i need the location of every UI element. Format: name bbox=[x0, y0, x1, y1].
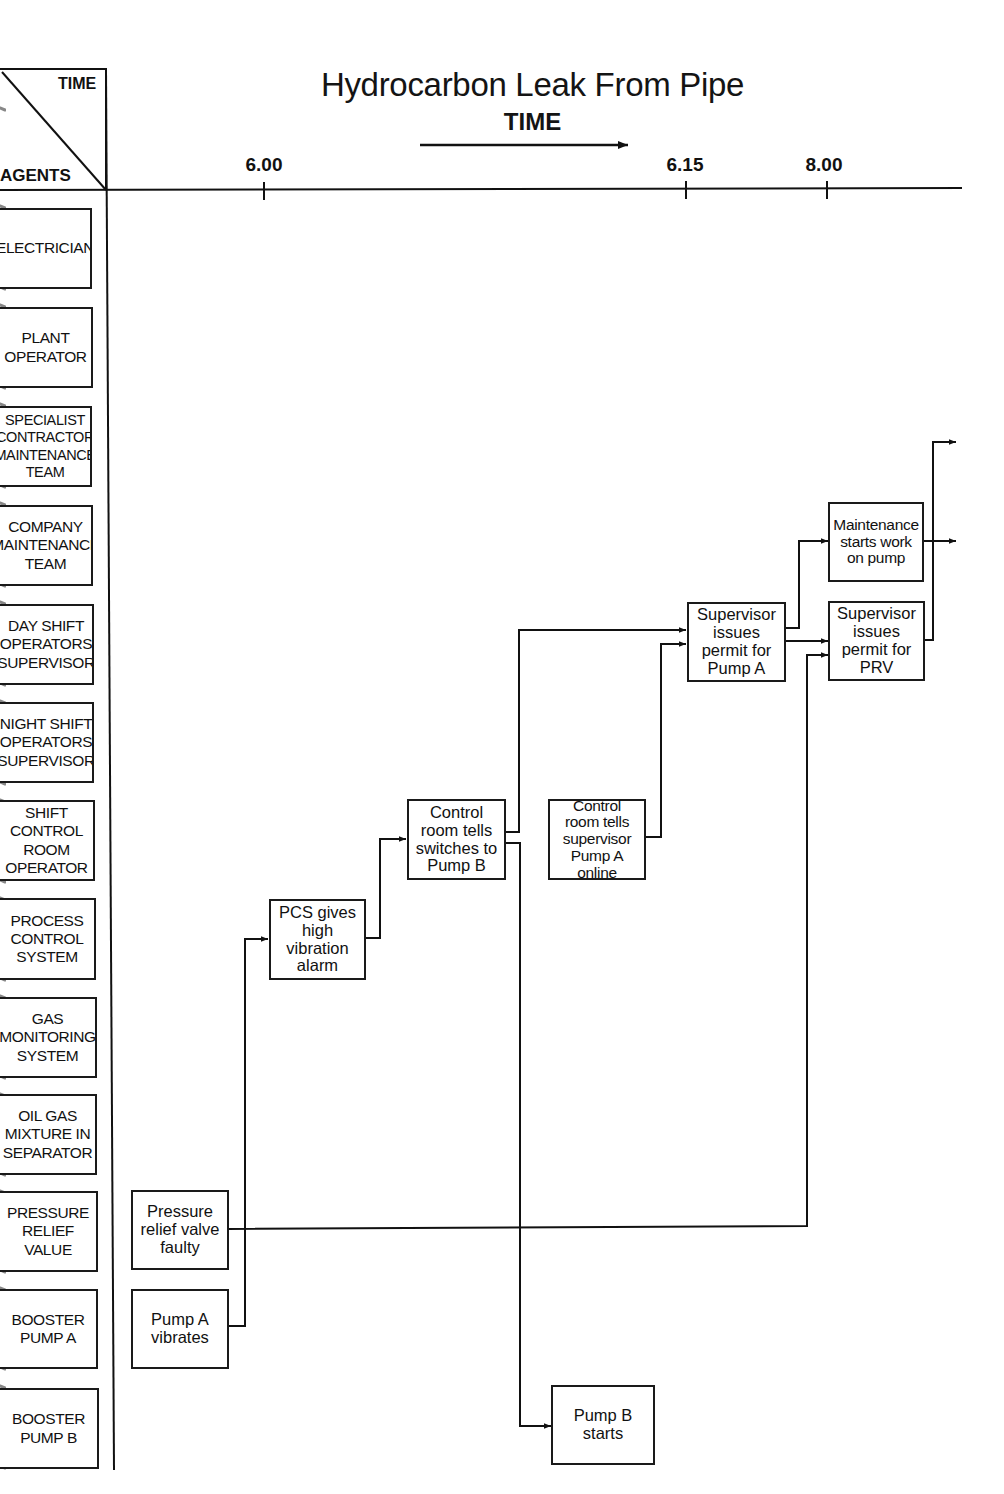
event-permit-pump-a: Supervisor issues permit for Pump A bbox=[687, 602, 786, 682]
agent-day-shift-supervisor: DAY SHIFT OPERATORS SUPERVISOR bbox=[0, 604, 94, 685]
link-control-room-to-pump-b bbox=[505, 843, 551, 1426]
agent-company-maintenance: COMPANY MAINTENANCE TEAM bbox=[0, 505, 93, 586]
link-online-to-permit-a bbox=[645, 644, 686, 837]
event-prv-faulty: Pressure relief valve faulty bbox=[131, 1190, 229, 1270]
link-pcs-to-control-room bbox=[365, 839, 406, 938]
agent-shift-control-room: SHIFT CONTROL ROOM OPERATOR bbox=[0, 800, 95, 881]
tick-label-6-00: 6.00 bbox=[224, 154, 304, 176]
event-pump-b-starts: Pump B starts bbox=[551, 1385, 655, 1465]
agent-gas-monitoring: GAS MONITORING SYSTEM bbox=[0, 997, 97, 1078]
agent-pressure-relief-valve: PRESSURE RELIEF VALUE bbox=[0, 1191, 98, 1272]
event-maintenance-starts: Maintenance starts work on pump bbox=[828, 502, 924, 582]
agent-booster-pump-b: BOOSTER PUMP B bbox=[0, 1388, 99, 1469]
agent-electrician: ELECTRICIAN bbox=[0, 208, 92, 289]
tick-label-6-15: 6.15 bbox=[645, 154, 725, 176]
corner-time-label: TIME bbox=[58, 75, 96, 93]
event-pump-a-vibrates: Pump A vibrates bbox=[131, 1289, 229, 1369]
time-axis bbox=[0, 188, 962, 190]
event-permit-prv: Supervisor issues permit for PRV bbox=[828, 601, 925, 681]
event-pcs-alarm: PCS gives high vibration alarm bbox=[269, 899, 366, 980]
agent-oil-gas-separator: OIL GAS MIXTURE IN SEPARATOR bbox=[0, 1094, 97, 1175]
agent-night-shift-supervisor: NIGHT SHIFT OPERATORS SUPERVISOR bbox=[0, 702, 94, 783]
agent-column-divider bbox=[106, 69, 114, 1470]
agent-process-control-system: PROCESS CONTROL SYSTEM bbox=[0, 898, 96, 980]
tick-label-8-00: 8.00 bbox=[784, 154, 864, 176]
event-control-room-switch: Control room tells switches to Pump B bbox=[407, 799, 506, 880]
event-control-room-online: Control room tells supervisor Pump A onl… bbox=[548, 799, 646, 880]
diagram-title: Hydrocarbon Leak From Pipe bbox=[300, 66, 765, 104]
agent-plant-operator: PLANT OPERATOR bbox=[0, 307, 93, 388]
agent-booster-pump-a: BOOSTER PUMP A bbox=[0, 1289, 98, 1369]
link-pump-a-to-pcs bbox=[228, 939, 268, 1326]
time-axis-label: TIME bbox=[470, 108, 595, 136]
link-permit-a-to-maintenance bbox=[785, 541, 828, 628]
corner-agents-label: AGENTS bbox=[0, 166, 71, 186]
agent-specialist-contractor: SPECIALIST CONTRACTOR MAINTENANCE TEAM bbox=[0, 406, 92, 487]
